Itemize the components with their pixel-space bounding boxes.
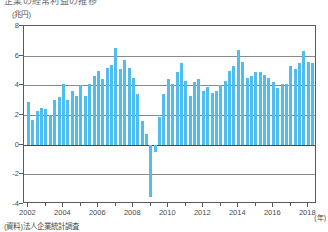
y-axis-unit-label: (兆円): [12, 8, 31, 19]
bar: [58, 97, 61, 145]
bar: [197, 79, 200, 144]
bar: [36, 111, 39, 145]
bar: [62, 84, 65, 145]
bar: [123, 60, 126, 145]
bar: [228, 71, 231, 145]
bar: [53, 100, 56, 145]
bar: [219, 85, 222, 144]
bar: [246, 78, 249, 145]
bar: [162, 94, 165, 144]
bar: [224, 81, 227, 145]
bar: [180, 63, 183, 145]
bar: [75, 96, 78, 145]
x-axis-tick-mark: [255, 203, 256, 206]
x-axis-tick-mark: [272, 203, 273, 207]
bar: [259, 72, 262, 145]
x-axis-tick-mark: [185, 203, 186, 206]
source-note: (資料)法人企業統計調査: [4, 220, 79, 231]
bar: [97, 71, 100, 145]
x-axis-tick-mark: [80, 203, 81, 206]
bar: [79, 85, 82, 144]
bar: [44, 109, 47, 145]
bar: [215, 91, 218, 144]
x-axis-tick-mark: [307, 203, 308, 207]
x-axis-tick-label: 2006: [89, 208, 106, 217]
bar: [49, 115, 52, 145]
bar: [206, 87, 209, 145]
bar: [132, 78, 135, 145]
x-axis-tick-mark: [115, 203, 116, 206]
x-axis-tick-mark: [202, 203, 203, 207]
bar: [71, 91, 74, 144]
bar: [66, 100, 69, 145]
bar: [141, 121, 144, 145]
bar: [289, 66, 292, 145]
x-axis-tick-label: 2004: [54, 208, 71, 217]
bar: [114, 48, 117, 144]
bar: [154, 145, 157, 152]
bar: [176, 72, 179, 145]
x-axis-tick-mark: [97, 203, 98, 207]
bar: [294, 69, 297, 145]
bar: [101, 79, 104, 144]
bar: [237, 50, 240, 145]
y-axis-tick-label: -2: [12, 169, 19, 178]
bar: [128, 68, 131, 145]
bar: [110, 65, 113, 145]
x-axis-tick-label: 2012: [194, 208, 211, 217]
bar: [84, 96, 87, 145]
bar: [145, 134, 148, 144]
x-axis-tick-label: 2014: [229, 208, 246, 217]
bar: [276, 88, 279, 144]
bar: [27, 102, 30, 145]
x-axis-tick-mark: [62, 203, 63, 207]
bar: [88, 84, 91, 145]
bar: [311, 63, 314, 145]
bar-series: [24, 26, 315, 202]
bar: [241, 62, 244, 145]
chart-title: 企業の経常利益の推移: [4, 0, 97, 7]
bar: [167, 79, 170, 144]
bar: [93, 76, 96, 144]
clipped-title-strip: 企業の経常利益の推移: [0, 0, 328, 7]
y-axis-tick-label: -4: [12, 199, 19, 208]
bar: [232, 66, 235, 145]
x-axis-tick-label: 2016: [264, 208, 281, 217]
bar: [302, 51, 305, 144]
bar: [119, 69, 122, 145]
x-axis-tick-label: 2008: [124, 208, 141, 217]
bar: [31, 120, 34, 145]
y-axis: 86420-2-4: [0, 25, 23, 203]
bar: [171, 84, 174, 145]
bar: [254, 72, 257, 145]
bar: [307, 62, 310, 145]
bar: [272, 82, 275, 144]
bar: [136, 94, 139, 144]
x-axis: 200220042006200820102012201420162018: [23, 203, 316, 221]
plot-area: [23, 25, 316, 203]
bar: [184, 81, 187, 145]
x-axis-tick-mark: [237, 203, 238, 207]
bar: [149, 145, 152, 197]
chart-figure: 企業の経常利益の推移 (兆円) 86420-2-4 20022004200620…: [0, 0, 328, 232]
bar: [211, 93, 214, 145]
x-axis-tick-mark: [150, 203, 151, 206]
bar: [285, 84, 288, 145]
x-axis-tick-mark: [220, 203, 221, 206]
bar: [298, 63, 301, 145]
bar: [250, 76, 253, 144]
x-axis-tick-mark: [290, 203, 291, 206]
bar: [158, 117, 161, 145]
bar: [267, 78, 270, 145]
x-axis-tick-mark: [45, 203, 46, 206]
bar: [202, 91, 205, 144]
bar: [263, 75, 266, 145]
x-axis-tick-label: 2010: [159, 208, 176, 217]
bar: [189, 96, 192, 145]
x-axis-tick-mark: [27, 203, 28, 207]
x-axis-tick-mark: [132, 203, 133, 207]
bar: [193, 82, 196, 144]
bar: [40, 108, 43, 145]
x-axis-unit-label: (年): [314, 212, 326, 222]
bar: [106, 68, 109, 145]
